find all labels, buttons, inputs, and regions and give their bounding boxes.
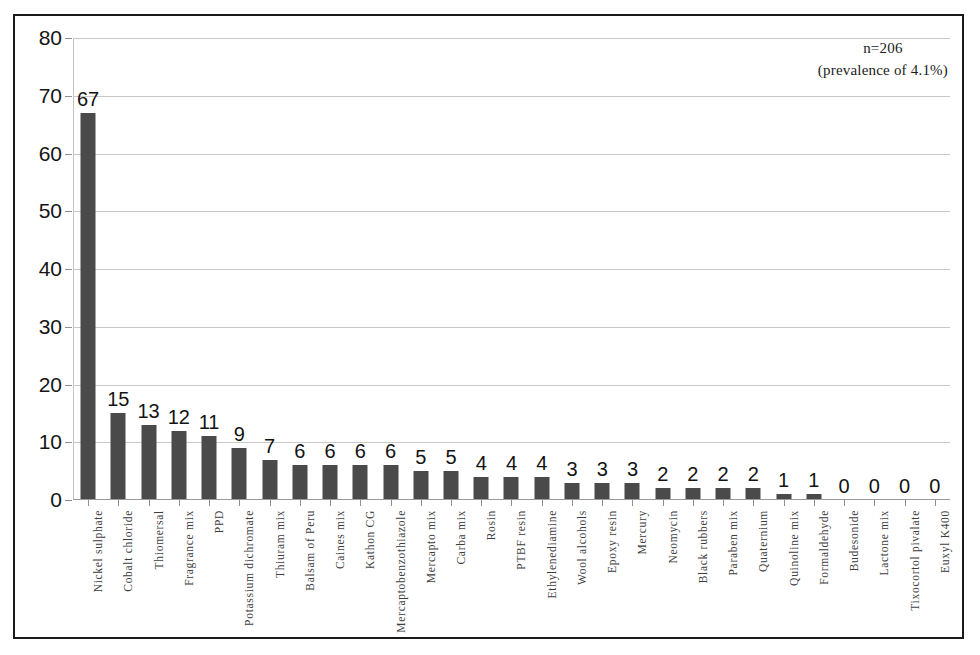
y-axis-tick-mark — [65, 154, 72, 155]
bar[interactable] — [111, 413, 126, 500]
bar-value-label: 3 — [627, 458, 638, 481]
x-axis-label-slot: Black rubbers — [678, 510, 708, 640]
y-axis-tick-label: 10 — [39, 430, 62, 454]
bar-slot: 4 — [466, 38, 496, 500]
y-axis-tick-mark — [65, 96, 72, 97]
y-axis-tick-label: 50 — [39, 199, 62, 223]
bar-slot: 15 — [103, 38, 133, 500]
x-axis-tick-mark — [270, 500, 271, 506]
bar-value-label: 0 — [869, 475, 880, 498]
x-axis-label-slot: Tixocortol pivalate — [890, 510, 920, 640]
y-axis-tick-label: 70 — [39, 84, 62, 108]
bar-value-label: 3 — [597, 458, 608, 481]
x-axis-label-slot: Mercapto mix — [406, 510, 436, 640]
x-axis-tick-mark — [784, 500, 785, 506]
plot-area: 01020304050607080 6715131211976666554443… — [73, 38, 950, 500]
bar[interactable] — [413, 471, 428, 500]
x-axis-tick-mark — [905, 500, 906, 506]
y-axis-tick-mark — [65, 500, 72, 501]
x-axis-tick-mark — [874, 500, 875, 506]
y-axis-tick-label: 0 — [50, 488, 62, 512]
bar-value-label: 0 — [839, 475, 850, 498]
bar-value-label: 1 — [778, 469, 789, 492]
x-axis-category-label: Euxyl K400 — [939, 510, 951, 573]
bar[interactable] — [444, 471, 459, 500]
bar[interactable] — [292, 465, 307, 500]
x-axis-label-slot: Ethylenediamine — [527, 510, 557, 640]
x-axis-label-slot: PPD — [194, 510, 224, 640]
x-axis-label-slot: Epoxy resin — [587, 510, 617, 640]
bar-slot: 2 — [708, 38, 738, 500]
x-axis-tick-mark — [753, 500, 754, 506]
bar-slot: 6 — [375, 38, 405, 500]
x-axis-tick-mark — [572, 500, 573, 506]
y-axis-tick-mark — [65, 442, 72, 443]
x-axis-tick-mark — [179, 500, 180, 506]
bar-value-label: 0 — [929, 475, 940, 498]
bar-slot: 6 — [315, 38, 345, 500]
bar-value-label: 5 — [445, 446, 456, 469]
bar-value-label: 4 — [506, 452, 517, 475]
x-axis-label-slot: Mercury — [617, 510, 647, 640]
x-axis-label-slot: Fragrance mix — [164, 510, 194, 640]
y-axis-tick-label: 30 — [39, 315, 62, 339]
x-axis-tick-mark — [88, 500, 89, 506]
bar-slot: 13 — [133, 38, 163, 500]
y-axis-tick-mark — [65, 38, 72, 39]
bar[interactable] — [262, 460, 277, 500]
bar-value-label: 3 — [566, 458, 577, 481]
bar[interactable] — [141, 425, 156, 500]
bar-slot: 1 — [769, 38, 799, 500]
bar[interactable] — [504, 477, 519, 500]
bar-slot: 2 — [648, 38, 678, 500]
x-axis-tick-mark — [814, 500, 815, 506]
x-axis-tick-mark — [300, 500, 301, 506]
x-axis-label-slot: Neomycin — [648, 510, 678, 640]
bar[interactable] — [383, 465, 398, 500]
x-axis-label-slot: Lactone mix — [859, 510, 889, 640]
bar-value-label: 9 — [234, 423, 245, 446]
x-axis-label-slot: Thiuram mix — [254, 510, 284, 640]
x-axis-label-slot: Nickel sulphate — [73, 510, 103, 640]
bar[interactable] — [232, 448, 247, 500]
bar[interactable] — [474, 477, 489, 500]
bar-slot: 9 — [224, 38, 254, 500]
x-axis-label-slot: Caines mix — [315, 510, 345, 640]
x-axis-label-slot: Rosin — [466, 510, 496, 640]
bar-slot: 6 — [345, 38, 375, 500]
bar[interactable] — [202, 436, 217, 500]
x-axis-label-slot: Euxyl K400 — [920, 510, 950, 640]
x-axis-label-slot: Potassium dichromate — [224, 510, 254, 640]
x-axis-label-slot: Balsam of Peru — [285, 510, 315, 640]
bar-value-label: 15 — [107, 388, 129, 411]
y-axis-tick-label: 80 — [39, 26, 62, 50]
bar-slot: 4 — [527, 38, 557, 500]
x-axis-tick-mark — [663, 500, 664, 506]
bar-value-label: 6 — [355, 440, 366, 463]
bar[interactable] — [171, 431, 186, 500]
bar-slot: 5 — [436, 38, 466, 500]
bar[interactable] — [595, 483, 610, 500]
bar[interactable] — [81, 113, 96, 500]
x-axis-tick-mark — [330, 500, 331, 506]
bar[interactable] — [564, 483, 579, 500]
bar-series: 6715131211976666554443332222110000 — [73, 38, 950, 500]
y-axis-tick-mark — [65, 269, 72, 270]
bar-value-label: 6 — [294, 440, 305, 463]
bar-slot: 3 — [617, 38, 647, 500]
bar-value-label: 2 — [748, 463, 759, 486]
x-axis-tick-mark — [451, 500, 452, 506]
bar[interactable] — [625, 483, 640, 500]
x-axis-label-slot: Thiomersal — [133, 510, 163, 640]
x-axis-label-slot: Paraben mix — [708, 510, 738, 640]
x-axis-label-slot: Budesonide — [829, 510, 859, 640]
y-axis-tick-mark — [65, 211, 72, 212]
bar-value-label: 12 — [168, 406, 190, 429]
bar[interactable] — [353, 465, 368, 500]
bar-value-label: 0 — [899, 475, 910, 498]
bar[interactable] — [323, 465, 338, 500]
bar[interactable] — [534, 477, 549, 500]
chart-figure: n=206 (prevalence of 4.1%) 0102030405060… — [13, 14, 964, 639]
x-axis-label-slot: Cobalt chloride — [103, 510, 133, 640]
y-axis-tick-label: 20 — [39, 373, 62, 397]
